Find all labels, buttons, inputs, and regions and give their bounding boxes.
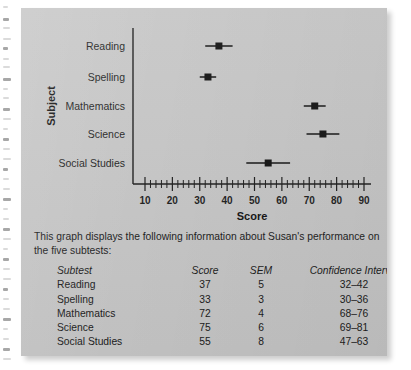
cell-subtest: Social Studies [57, 335, 177, 349]
binding-mark [3, 78, 11, 81]
y-axis-category-label: Social Studies [58, 157, 125, 169]
caption-block: This graph displays the following inform… [34, 230, 386, 350]
cell-score: 72 [177, 307, 233, 321]
binding-mark [3, 168, 8, 171]
x-axis-tick-label: 60 [276, 195, 288, 206]
binding-mark [3, 128, 8, 130]
data-point-marker [215, 43, 222, 50]
binding-mark [3, 338, 9, 340]
binding-mark [3, 318, 11, 321]
binding-mark [3, 328, 8, 330]
cell-sem: 8 [233, 335, 289, 349]
cell-score: 55 [177, 335, 233, 349]
column-header-score: Score [177, 264, 233, 278]
cell-sem: 6 [233, 321, 289, 335]
binding-mark [3, 248, 8, 250]
table-row: Reading37532–42 [57, 278, 387, 292]
binding-mark [3, 188, 10, 190]
binding-mark [3, 278, 11, 280]
table-row: Spelling33330–36 [57, 293, 387, 307]
x-axis-tick-label: 20 [167, 195, 179, 206]
binding-mark [3, 258, 9, 261]
column-header-sem: SEM [233, 264, 289, 278]
column-header-subtest: Subtest [57, 264, 177, 278]
column-header-confidence-interval: Confidence Interval [289, 264, 387, 278]
table-row: Mathematics72468–76 [57, 307, 387, 321]
binding-mark [3, 58, 9, 60]
cell-ci: 30–36 [289, 293, 387, 307]
x-axis-tick-label: 50 [249, 195, 261, 206]
binding-mark [3, 298, 9, 300]
binding-mark [3, 238, 11, 240]
binding-mark [3, 228, 10, 231]
score-profile-chart: 102030405060708090ReadingSpellingMathema… [21, 8, 387, 220]
binding-mark [3, 97, 9, 99]
cell-subtest: Science [57, 321, 177, 335]
cell-subtest: Mathematics [57, 307, 177, 321]
binding-mark [3, 218, 9, 220]
y-axis-category-label: Mathematics [65, 100, 125, 112]
figure-page-card: 102030405060708090ReadingSpellingMathema… [21, 8, 387, 356]
scan-binding-artifacts [0, 0, 17, 370]
binding-mark [3, 288, 8, 291]
binding-mark [3, 6, 8, 8]
cell-subtest: Spelling [57, 293, 177, 307]
x-axis-title: Score [237, 210, 268, 220]
cell-sem: 4 [233, 307, 289, 321]
data-point-marker [265, 160, 272, 167]
cell-subtest: Reading [57, 278, 177, 292]
data-point-marker [311, 103, 318, 110]
binding-mark [3, 198, 11, 201]
table-row: Science75669–81 [57, 321, 387, 335]
y-axis-category-label: Spelling [88, 71, 126, 83]
binding-mark [3, 348, 10, 351]
data-point-marker [204, 74, 211, 81]
x-axis-tick-label: 70 [304, 195, 316, 206]
data-point-marker [319, 131, 326, 138]
binding-mark [3, 178, 9, 180]
x-axis-tick-label: 90 [358, 195, 370, 206]
cell-ci: 32–42 [289, 278, 387, 292]
binding-mark [3, 66, 10, 68]
binding-mark [3, 108, 10, 111]
cell-ci: 68–76 [289, 307, 387, 321]
y-axis-category-label: Reading [86, 40, 125, 52]
subtest-scores-table: Subtest Score SEM Confidence Interval Re… [57, 264, 387, 350]
chart-svg: 102030405060708090ReadingSpellingMathema… [21, 8, 387, 220]
y-axis-title: Subject [45, 86, 57, 126]
cell-score: 75 [177, 321, 233, 335]
binding-mark [3, 138, 9, 141]
cell-sem: 5 [233, 278, 289, 292]
cell-ci: 47–63 [289, 335, 387, 349]
binding-mark [3, 27, 10, 29]
binding-mark [3, 268, 10, 270]
binding-mark [3, 88, 8, 90]
binding-mark [3, 208, 8, 210]
binding-mark [3, 38, 11, 40]
table-body: Reading37532–42Spelling33330–36Mathemati… [57, 278, 387, 349]
binding-mark [3, 158, 11, 160]
cell-sem: 3 [233, 293, 289, 307]
binding-mark [3, 358, 11, 360]
binding-mark [3, 118, 11, 120]
cell-score: 33 [177, 293, 233, 307]
caption-paragraph: This graph displays the following inform… [34, 230, 386, 257]
table-row: Social Studies55847–63 [57, 335, 387, 349]
cell-ci: 69–81 [289, 321, 387, 335]
x-axis-tick-label: 30 [194, 195, 206, 206]
x-axis-tick-label: 80 [331, 195, 343, 206]
binding-mark [3, 47, 8, 50]
binding-mark [3, 18, 9, 21]
x-axis-tick-label: 40 [222, 195, 234, 206]
table-header-row: Subtest Score SEM Confidence Interval [57, 264, 387, 278]
y-axis-category-label: Science [88, 128, 126, 140]
binding-mark [3, 308, 10, 310]
x-axis-tick-label: 10 [139, 195, 151, 206]
cell-score: 37 [177, 278, 233, 292]
binding-mark [3, 148, 10, 150]
